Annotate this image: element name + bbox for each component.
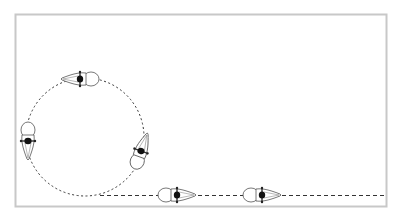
diagram-frame [16, 15, 387, 207]
circle-path-diagram [0, 0, 400, 220]
